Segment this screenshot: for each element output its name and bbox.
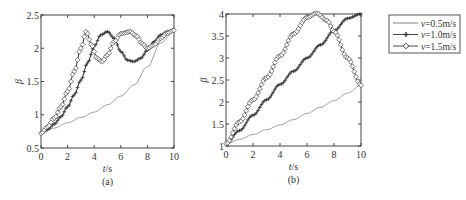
x-tick-label: 2 [251,149,256,160]
x-tick-label: 8 [145,151,150,162]
panel-label: (b) [288,174,300,186]
y-tick-label: 1.5 [27,76,40,87]
y-tick-label: 2 [34,43,39,54]
x-tick-label: 4 [278,149,283,160]
y-tick-label: 1 [34,109,39,120]
y-axis-label: β [13,79,24,85]
legend: v=0.5m/sv=1.0m/sv=1.5m/s [389,15,460,53]
x-tick-label: 8 [332,149,337,160]
y-tick-label: 1.5 [212,119,225,130]
plot-area-frame [41,15,174,148]
x-tick-label: 6 [305,149,310,160]
chart-panel-b: 024681011.522.533.54t/sβ(b) [198,9,366,187]
svg-text:v=1.5m/s: v=1.5m/s [421,42,456,52]
y-tick-label: 4 [219,9,224,20]
y-tick-label: 2.5 [212,75,225,86]
x-tick-label: 0 [224,149,229,160]
x-tick-label: 0 [39,151,44,162]
x-tick-label: 10 [169,151,179,162]
y-tick-label: 2.5 [27,10,40,21]
chart-figure: 02468100.511.522.5t/sβ(a)024681011.522.5… [0,0,466,200]
x-tick-label: 10 [356,149,366,160]
x-tick-label: 2 [65,151,70,162]
x-tick-label: 4 [92,151,97,162]
x-axis-label: t/s [289,161,299,172]
y-tick-label: 3 [219,53,224,64]
panel-label: (a) [102,176,113,188]
y-tick-label: 3.5 [212,31,225,42]
y-axis-label: β [198,77,209,83]
x-tick-label: 6 [118,151,123,162]
y-tick-label: 0.5 [27,143,40,154]
x-axis-label: t/s [103,163,113,174]
svg-text:v=0.5m/s: v=0.5m/s [421,19,456,29]
y-tick-label: 1 [219,141,224,152]
chart-panel-a: 02468100.511.522.5t/sβ(a) [13,10,179,189]
y-tick-label: 2 [219,97,224,108]
svg-text:v=1.0m/s: v=1.0m/s [421,30,456,40]
